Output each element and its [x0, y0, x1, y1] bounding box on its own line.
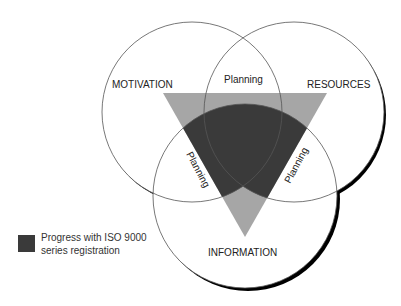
- label-resources: RESOURCES: [307, 79, 371, 90]
- label-planning-top: Planning: [224, 74, 263, 85]
- legend-line-1: Progress with ISO 9000: [41, 231, 171, 244]
- legend: Progress with ISO 9000 series registrati…: [18, 231, 171, 257]
- legend-line-2: series registration: [41, 244, 171, 257]
- venn-diagram: MOTIVATION RESOURCES INFORMATION Plannin…: [0, 0, 401, 306]
- legend-text: Progress with ISO 9000 series registrati…: [41, 231, 171, 257]
- label-motivation: MOTIVATION: [112, 79, 173, 90]
- legend-swatch: [18, 235, 35, 252]
- label-information: INFORMATION: [208, 247, 277, 258]
